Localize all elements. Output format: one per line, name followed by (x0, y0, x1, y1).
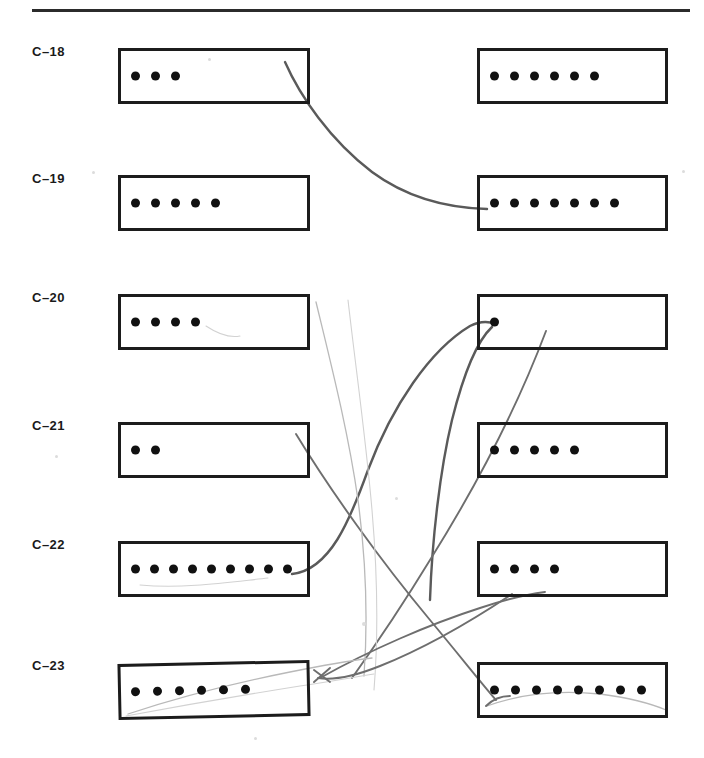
dot (637, 686, 646, 695)
right-dots-c19 (490, 199, 619, 208)
dot (595, 686, 604, 695)
row-label-c22: C–22 (32, 537, 65, 552)
left-dots-c23 (131, 685, 250, 696)
dot (490, 199, 499, 208)
dot (131, 565, 140, 574)
dot (574, 686, 583, 695)
row-c20: C–20 (0, 288, 704, 348)
row-label-c23: C–23 (32, 658, 65, 673)
dot (550, 446, 559, 455)
dot (616, 686, 625, 695)
dot (590, 199, 599, 208)
dot (245, 565, 254, 574)
row-label-c21: C–21 (32, 418, 65, 433)
dot (175, 686, 184, 695)
connector-c20-left-long-faint (316, 302, 366, 676)
dot (151, 199, 160, 208)
right-box-c18[interactable] (477, 48, 668, 104)
dot (131, 199, 140, 208)
dot (590, 72, 599, 81)
scan-speck (682, 170, 685, 173)
dot (530, 565, 539, 574)
dot (550, 199, 559, 208)
dot (610, 199, 619, 208)
right-dots-c21 (490, 446, 579, 455)
connector-curves-overlay (0, 0, 704, 758)
left-dots-c19 (131, 199, 220, 208)
right-box-c21[interactable] (477, 422, 668, 478)
left-box-c22[interactable] (118, 541, 310, 597)
dot (211, 199, 220, 208)
row-c22: C–22 (0, 535, 704, 595)
left-dots-c22 (131, 565, 292, 574)
row-c18: C–18 (0, 42, 704, 102)
dot (490, 318, 499, 327)
dot (490, 446, 499, 455)
row-label-c19: C–19 (32, 171, 65, 186)
connector-faint-vertical (348, 300, 377, 690)
dot (131, 72, 140, 81)
dot (151, 72, 160, 81)
right-box-c22[interactable] (477, 541, 668, 597)
dot (283, 565, 292, 574)
scan-speck (362, 622, 366, 626)
dot (490, 565, 499, 574)
scan-speck (92, 171, 95, 174)
dot (510, 199, 519, 208)
dot (530, 199, 539, 208)
right-box-c23[interactable] (477, 662, 668, 718)
right-dots-c23 (490, 686, 646, 695)
row-c23: C–23 (0, 656, 704, 716)
right-box-c20[interactable] (477, 294, 668, 350)
dot (171, 318, 180, 327)
dot (151, 446, 160, 455)
dot (550, 565, 559, 574)
dot (171, 72, 180, 81)
dot (553, 686, 562, 695)
dot (188, 565, 197, 574)
scan-speck (395, 497, 398, 500)
dot (169, 565, 178, 574)
dot (511, 686, 520, 695)
dot (150, 565, 159, 574)
dot (530, 72, 539, 81)
dot (219, 685, 228, 694)
top-divider-rule (32, 9, 690, 12)
right-dots-c20 (490, 318, 499, 327)
dot (153, 687, 162, 696)
dot (570, 446, 579, 455)
dot (241, 685, 250, 694)
dot (510, 72, 519, 81)
connector-c20-right-to-lower-left (352, 331, 546, 678)
dot (550, 72, 559, 81)
left-box-c19[interactable] (118, 175, 310, 231)
left-dots-c18 (131, 72, 180, 81)
left-dots-c20 (131, 318, 200, 327)
row-label-c18: C–18 (32, 44, 65, 59)
left-box-c21[interactable] (118, 422, 310, 478)
dot (191, 318, 200, 327)
dot (191, 199, 200, 208)
right-dots-c18 (490, 72, 599, 81)
dot (570, 199, 579, 208)
dot (131, 687, 140, 696)
left-box-c18[interactable] (118, 48, 310, 104)
right-dots-c22 (490, 565, 559, 574)
dot (197, 686, 206, 695)
scan-speck (55, 455, 58, 458)
left-box-c23[interactable] (117, 660, 310, 720)
dot (570, 72, 579, 81)
dot (490, 686, 499, 695)
row-c21: C–21 (0, 416, 704, 476)
figure-root: C–18 C–19 (0, 0, 704, 758)
scan-speck (208, 58, 211, 61)
right-box-c19[interactable] (477, 175, 668, 231)
left-box-c20[interactable] (118, 294, 310, 350)
dot (226, 565, 235, 574)
dot (510, 446, 519, 455)
row-c19: C–19 (0, 169, 704, 229)
dot (171, 199, 180, 208)
dot (532, 686, 541, 695)
dot (131, 318, 140, 327)
row-label-c20: C–20 (32, 290, 65, 305)
